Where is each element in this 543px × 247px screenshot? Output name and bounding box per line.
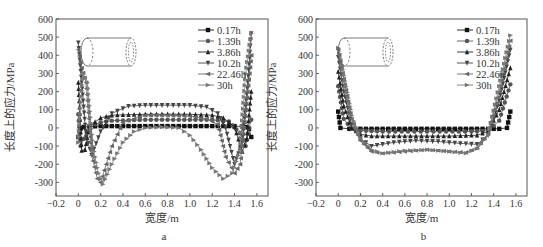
cylinder-icon [338,38,393,66]
x-tick-label: 0.2 [94,198,107,209]
legend-item: 30h [198,80,234,91]
legend-label: 1.39h [217,36,241,47]
legend-label: 10.2h [476,58,500,69]
x-tick-label: 1.4 [228,198,241,209]
x-tick-label: 0.6 [399,198,412,209]
y-tick-label: 500 [298,32,313,43]
y-tick-label: 100 [38,104,53,115]
y-axis-label: 长度上的应力/MPa [265,62,278,152]
x-tick-label: 0.4 [376,198,389,209]
y-tick-label: 200 [38,86,53,97]
x-tick-label: 1.6 [251,198,264,209]
y-tick-label: 600 [38,14,53,25]
y-tick-label: 400 [298,50,313,61]
x-axis: −0.200.20.40.60.81.01.21.41.6 [47,193,263,209]
x-tick-label: 1.0 [184,198,197,209]
y-tick-label: 0 [308,122,313,133]
legend-item: 0.17h [457,25,500,36]
legend-label: 1.39h [476,36,500,47]
x-tick-label: 1.4 [487,198,500,209]
legend-item: 30h [457,80,493,91]
x-axis-label: 宽度/m [145,211,179,224]
x-tick-label: −0.2 [307,198,325,209]
legend-item: 22.46h [457,69,506,80]
y-tick-label: 300 [298,68,313,79]
legend-item: 10.2h [198,58,241,69]
legend-label: 30h [217,80,234,91]
figure: -300-200-1000100200300400500600−0.200.20… [0,0,543,247]
x-tick-label: 1.2 [206,198,219,209]
x-axis: −0.200.20.40.60.81.01.21.41.6 [307,193,522,209]
legend-label: 3.86h [476,47,500,58]
y-tick-label: -300 [35,177,53,188]
panel-caption: b [421,230,427,242]
y-tick-label: 0 [48,122,53,133]
y-tick-label: -100 [35,141,53,152]
y-tick-label: 100 [298,104,313,115]
y-tick-label: 400 [38,50,53,61]
x-tick-label: 1.2 [465,198,478,209]
x-tick-label: 0.8 [421,198,434,209]
y-tick-label: 600 [298,14,313,25]
y-axis: -300-200-1000100200300400500600 [295,14,319,188]
legend-item: 10.2h [457,58,500,69]
y-tick-label: -300 [295,177,313,188]
series-3.86h [76,80,253,154]
legend-label: 0.17h [217,25,241,36]
x-tick-label: 1.6 [510,198,523,209]
legend-label: 3.86h [217,47,241,58]
series-0.17h [336,109,513,131]
y-axis: -300-200-1000100200300400500600 [35,14,59,188]
y-tick-label: 200 [298,86,313,97]
x-tick-label: 0.2 [354,198,367,209]
y-tick-label: -100 [295,141,313,152]
x-tick-label: 0 [336,198,341,209]
legend-item: 1.39h [457,36,500,47]
legend-label: 10.2h [217,58,241,69]
legend-label: 30h [476,80,493,91]
legend-item: 3.86h [457,47,500,58]
legend: 0.17h1.39h3.86h10.2h22.46h30h [198,25,247,91]
x-tick-label: 0.6 [139,198,152,209]
chart-panel-a: -300-200-1000100200300400500600−0.200.20… [3,14,268,243]
x-axis-label: 宽度/m [405,211,439,224]
legend-item: 1.39h [198,36,241,47]
cylinder-icon [81,38,136,66]
y-tick-label: 500 [38,32,53,43]
legend-label: 22.46h [476,69,506,80]
x-tick-label: 1.0 [443,198,456,209]
legend-item: 22.46h [198,69,247,80]
legend-label: 0.17h [476,25,500,36]
legend-item: 0.17h [198,25,241,36]
legend-label: 22.46h [217,69,247,80]
x-tick-label: 0.8 [161,198,174,209]
x-tick-label: 0 [76,198,81,209]
legend-item: 3.86h [198,47,241,58]
panel-caption: a [162,230,167,242]
y-tick-label: 300 [38,68,53,79]
y-axis-label: 长度上的应力/MPa [3,62,16,152]
y-tick-label: -200 [295,159,313,170]
y-tick-label: -200 [35,159,53,170]
x-tick-label: 0.4 [117,198,130,209]
x-tick-label: −0.2 [47,198,65,209]
chart-panel-b: -300-200-1000100200300400500600−0.200.20… [265,14,527,243]
